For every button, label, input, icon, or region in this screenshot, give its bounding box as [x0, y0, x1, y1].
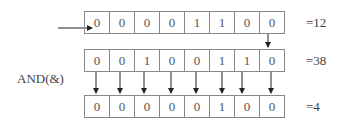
bit-cell: 0 [84, 95, 110, 118]
operation-label: AND(&) [17, 71, 64, 87]
bit-cell: 0 [159, 49, 185, 72]
bit-cell: 0 [134, 95, 160, 118]
result-label-b: =38 [306, 53, 326, 69]
bit-cell: 0 [234, 95, 260, 118]
result-label-and: =4 [306, 99, 320, 115]
bit-cell: 1 [209, 95, 235, 118]
bit-cell: 0 [259, 95, 285, 118]
bit-cell: 0 [259, 49, 285, 72]
bit-cell: 0 [159, 95, 185, 118]
row-operand-a: 0 0 0 0 1 1 0 0 [84, 11, 285, 33]
bit-cell: 1 [234, 49, 260, 72]
bit-cell: 0 [259, 11, 285, 34]
bit-cell: 1 [184, 11, 210, 34]
row-and-result: 0 0 0 0 0 1 0 0 [84, 95, 285, 117]
bit-cell: 0 [184, 95, 210, 118]
bit-cell: 1 [134, 49, 160, 72]
bit-cell: 0 [159, 11, 185, 34]
bit-cell: 0 [234, 11, 260, 34]
bit-cell: 1 [209, 49, 235, 72]
bit-cell: 0 [84, 49, 110, 72]
bit-cell: 0 [184, 49, 210, 72]
result-label-a: =12 [306, 15, 326, 31]
row-operand-b: 0 0 1 0 0 1 1 0 [84, 49, 285, 71]
bit-cell: 0 [109, 11, 135, 34]
bit-cell: 1 [209, 11, 235, 34]
bit-cell: 0 [134, 11, 160, 34]
bit-cell: 0 [109, 49, 135, 72]
bit-cell: 0 [84, 11, 110, 34]
bit-cell: 0 [109, 95, 135, 118]
